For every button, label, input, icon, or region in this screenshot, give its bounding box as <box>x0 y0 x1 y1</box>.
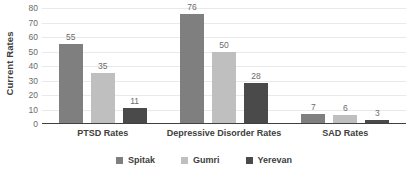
legend-label: Spitak <box>128 155 155 165</box>
x-axis-line <box>42 123 406 124</box>
legend-item[interactable]: Spitak <box>116 155 155 165</box>
bar-value-label: 76 <box>187 2 196 12</box>
x-axis-category-labels: PTSD RatesDepressive Disorder RatesSAD R… <box>42 128 406 144</box>
x-axis-category-label: Depressive Disorder Rates <box>163 128 284 144</box>
bar-chart: Current Rates 01020304050607080 55351176… <box>0 0 408 175</box>
bar[interactable] <box>244 83 268 124</box>
bar[interactable] <box>59 44 83 124</box>
bar-group: 553511 <box>42 8 163 124</box>
bar-slot: 7 <box>301 8 325 124</box>
plot-area: 553511765028763 <box>42 8 406 124</box>
bar[interactable] <box>91 73 115 124</box>
y-axis-tick-labels: 01020304050607080 <box>18 8 40 124</box>
bar-slot: 28 <box>244 8 268 124</box>
bar-value-label: 50 <box>219 40 228 50</box>
bar-slot: 76 <box>180 8 204 124</box>
y-axis-tick-label: 70 <box>29 18 38 28</box>
legend-swatch-icon <box>246 157 253 164</box>
bar-value-label: 6 <box>343 103 348 113</box>
bar[interactable] <box>180 14 204 124</box>
bar-groups: 553511765028763 <box>42 8 406 124</box>
bar-value-label: 11 <box>130 96 139 106</box>
bar-slot: 35 <box>91 8 115 124</box>
x-axis-category-label: SAD Rates <box>285 128 406 144</box>
y-axis-tick-label: 0 <box>33 119 38 129</box>
y-axis-tick-label: 30 <box>29 76 38 86</box>
bar-slot: 3 <box>365 8 389 124</box>
bar-group: 763 <box>285 8 406 124</box>
legend-swatch-icon <box>116 157 123 164</box>
bar-value-label: 35 <box>98 61 107 71</box>
bar-group: 765028 <box>163 8 284 124</box>
legend-label: Gumri <box>193 155 220 165</box>
bar-slot: 50 <box>212 8 236 124</box>
y-axis-tick-label: 20 <box>29 90 38 100</box>
y-axis-tick-label: 10 <box>29 105 38 115</box>
bar-value-label: 3 <box>375 108 380 118</box>
bar-value-label: 28 <box>251 71 260 81</box>
bar[interactable] <box>212 52 236 125</box>
bar-slot: 11 <box>123 8 147 124</box>
y-axis-tick-label: 40 <box>29 61 38 71</box>
bar[interactable] <box>123 108 147 124</box>
legend-item[interactable]: Gumri <box>181 155 220 165</box>
legend-swatch-icon <box>181 157 188 164</box>
bar-slot: 6 <box>333 8 357 124</box>
y-axis-title: Current Rates <box>0 0 18 126</box>
legend-label: Yerevan <box>258 155 293 165</box>
chart-legend: SpitakGumriYerevan <box>0 152 408 168</box>
bar-value-label: 7 <box>311 102 316 112</box>
y-axis-tick-label: 80 <box>29 3 38 13</box>
x-axis-category-label: PTSD Rates <box>42 128 163 144</box>
y-axis-tick-label: 50 <box>29 47 38 57</box>
y-axis-title-text: Current Rates <box>4 31 15 95</box>
bar-value-label: 55 <box>66 32 75 42</box>
bar-slot: 55 <box>59 8 83 124</box>
legend-item[interactable]: Yerevan <box>246 155 293 165</box>
y-axis-tick-label: 60 <box>29 32 38 42</box>
